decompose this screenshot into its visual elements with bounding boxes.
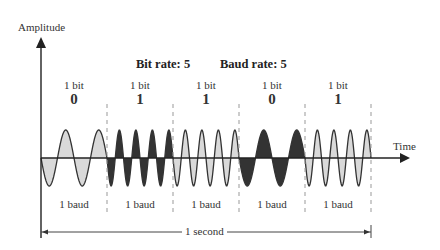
baud-label: 1 baud (41, 198, 107, 210)
bit-value: 1 (305, 91, 371, 108)
time-axis-arrow-icon (400, 153, 410, 163)
baud-label: 1 baud (305, 198, 371, 210)
x-axis-label: Time (393, 140, 416, 152)
y-axis-label: Amplitude (18, 21, 65, 33)
baud-rate-label: Baud rate: 5 (220, 57, 287, 72)
bit-rate-label: Bit rate: 5 (136, 57, 190, 72)
duration-arrow-right-icon (364, 230, 370, 235)
bit-value: 1 (173, 91, 239, 108)
bit-value: 0 (41, 91, 107, 108)
bit-label: 1 bit (173, 79, 239, 91)
bit-label: 1 bit (305, 79, 371, 91)
duration-label: 1 second (182, 225, 227, 237)
baud-label: 1 baud (173, 198, 239, 210)
duration-arrow-left-icon (42, 230, 48, 235)
bit-label: 1 bit (239, 79, 305, 91)
bit-label: 1 bit (41, 79, 107, 91)
bit-value: 1 (107, 91, 173, 108)
fsk-diagram (0, 0, 440, 250)
baud-label: 1 baud (107, 198, 173, 210)
bit-label: 1 bit (107, 79, 173, 91)
bit-value: 0 (239, 91, 305, 108)
amplitude-axis-arrow-icon (36, 37, 46, 48)
baud-label: 1 baud (239, 198, 305, 210)
